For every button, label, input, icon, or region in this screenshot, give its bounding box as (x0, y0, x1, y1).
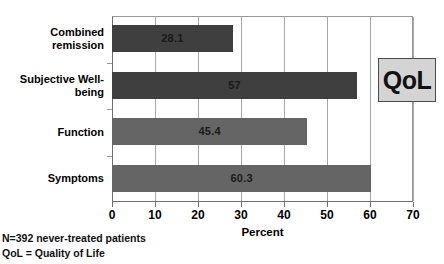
x-axis-tick (370, 202, 371, 207)
x-axis-tick-label: 50 (307, 208, 347, 222)
bars-layer: 28.15745.460.3 (112, 16, 413, 202)
category-label-line: being (0, 86, 104, 99)
x-axis-tick (112, 202, 113, 207)
x-axis-tick-label: 30 (221, 208, 261, 222)
bar-row: 45.4 (112, 109, 413, 156)
bar-value-label: 60.3 (112, 165, 371, 192)
x-axis-tick (327, 202, 328, 207)
x-axis-tick-label: 0 (92, 208, 132, 222)
category-axis: CombinedremissionSubjective Well-beingFu… (0, 16, 109, 202)
x-axis-tick (413, 202, 414, 207)
footnote: N=392 never-treated patients (2, 231, 302, 246)
category-tick (107, 63, 112, 64)
footnote: QoL = Quality of Life (2, 246, 302, 261)
x-axis-tick-label: 60 (350, 208, 390, 222)
x-axis-tick (198, 202, 199, 207)
x-axis-tick-label: 40 (264, 208, 304, 222)
category-label: Symptoms (0, 172, 104, 185)
category-tick (107, 156, 112, 157)
category-label-line: Subjective Well- (0, 73, 104, 86)
bar-value-label: 45.4 (112, 118, 307, 145)
qol-callout-label: QoL (383, 68, 432, 93)
category-label-line: Combined (0, 26, 104, 39)
category-label-line: Symptoms (0, 172, 104, 185)
x-axis-tick-label: 20 (178, 208, 218, 222)
bar-row: 28.1 (112, 16, 413, 63)
bar-row: 60.3 (112, 156, 413, 203)
x-axis-tick (284, 202, 285, 207)
x-axis-tick (241, 202, 242, 207)
bar-value-label: 28.1 (112, 25, 233, 52)
x-axis-tick-label: 70 (393, 208, 433, 222)
bar-chart: 28.15745.460.3 CombinedremissionSubjecti… (0, 0, 444, 264)
category-label: Subjective Well-being (0, 73, 104, 99)
bar-value-label: 57 (112, 72, 357, 99)
category-label-line: remission (0, 39, 104, 52)
x-axis-tick-label: 10 (135, 208, 175, 222)
category-label: Combinedremission (0, 26, 104, 52)
bar-row: 57 (112, 63, 413, 110)
category-tick (107, 109, 112, 110)
x-axis-tick (155, 202, 156, 207)
category-label: Function (0, 126, 104, 139)
qol-callout-box: QoL (378, 58, 436, 102)
category-label-line: Function (0, 126, 104, 139)
footnote-block: N=392 never-treated patientsQoL = Qualit… (2, 231, 302, 260)
